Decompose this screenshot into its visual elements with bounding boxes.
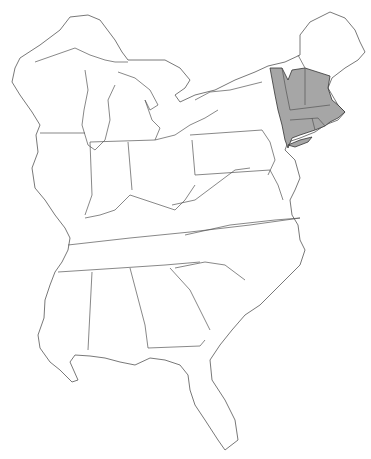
eastern-us-map: [0, 0, 371, 459]
